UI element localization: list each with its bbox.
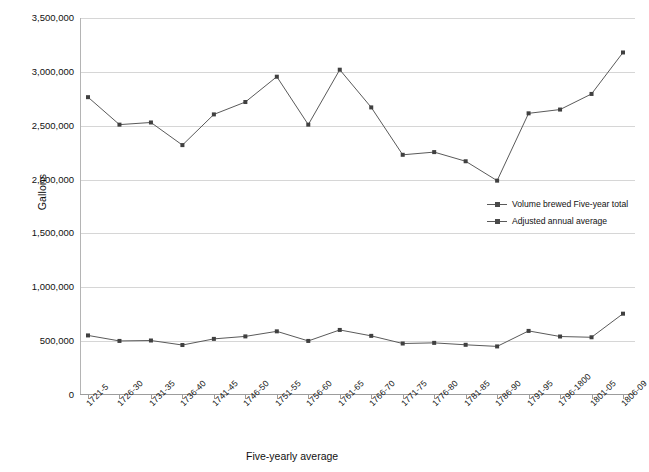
legend-label: Volume brewed Five-year total <box>512 199 628 209</box>
x-axis-tick-label: 1776-80 <box>430 378 460 408</box>
x-axis-tick-label: 1771-75 <box>399 378 429 408</box>
x-axis-tick-label: 1721-5 <box>84 382 110 408</box>
x-axis-tick-label: 1731-35 <box>147 378 177 408</box>
x-axis-tick-label: 1726-30 <box>115 378 145 408</box>
x-axis-tick-label: 1746-50 <box>241 378 271 408</box>
x-axis-tick-label: 1801-05 <box>588 378 618 408</box>
x-axis-tick-label: 1806-09 <box>619 378 649 408</box>
x-axis-tick-label: 1791-95 <box>525 378 555 408</box>
x-axis-tick-label: 1766-70 <box>367 378 397 408</box>
x-axis-tick-label: 1786-90 <box>493 378 523 408</box>
x-axis-tick-label: 1741-45 <box>210 378 240 408</box>
legend-item[interactable]: Volume brewed Five-year total <box>487 197 637 211</box>
legend-label: Adjusted annual average <box>512 216 607 226</box>
x-axis-title: Five-yearly average <box>246 450 338 462</box>
x-axis-tick-label: 1781-85 <box>462 378 492 408</box>
legend-marker-icon <box>487 216 507 226</box>
legend-item[interactable]: Adjusted annual average <box>487 214 637 228</box>
x-axis-tick-label: 1736-40 <box>178 378 208 408</box>
x-axis-tick-label: 1756-60 <box>304 378 334 408</box>
x-axis-tick-label: 1761-65 <box>336 378 366 408</box>
legend-marker-icon <box>487 199 507 209</box>
chart-legend: Volume brewed Five-year totalAdjusted an… <box>487 197 637 231</box>
x-axis-tick-label: 1796-1800 <box>556 371 593 408</box>
x-axis-tick-label: 1751-55 <box>273 378 303 408</box>
